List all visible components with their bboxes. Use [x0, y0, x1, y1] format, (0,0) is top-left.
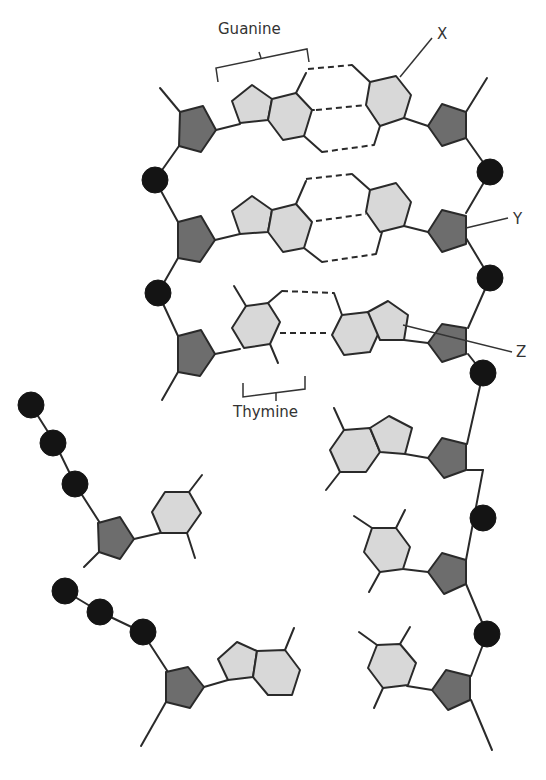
phosphate-right-5	[474, 621, 500, 647]
phosphate-left-2	[145, 280, 171, 306]
sugar-left-3	[178, 330, 215, 376]
guanine-label: Guanine	[218, 20, 281, 38]
phosphate-right-3	[470, 360, 496, 386]
purine-pentagon-free-2	[218, 642, 257, 680]
thymine-label: Thymine	[233, 403, 298, 421]
free-nucleotide-2	[52, 578, 300, 746]
base-pair-row-2	[178, 174, 466, 262]
phosphate-free-2a	[52, 578, 78, 604]
guanine-pentagon	[232, 85, 272, 123]
purine-hexagon-2	[268, 204, 312, 252]
sugar-free-2	[166, 667, 204, 708]
right-strand-unpaired	[326, 408, 470, 710]
sugar-right-4	[428, 438, 466, 478]
sugar-right-6	[432, 670, 470, 710]
purine-hexagon-free-2	[253, 650, 300, 695]
sugar-free-1	[98, 517, 134, 559]
base-pair-row-1	[179, 65, 466, 152]
pyrimidine-hexagon-2	[366, 183, 411, 232]
z-label: Z	[516, 343, 526, 361]
x-leader-line	[400, 38, 432, 77]
left-backbone	[155, 88, 180, 400]
y-leader-line	[466, 218, 508, 228]
guanine-bracket	[216, 49, 309, 82]
purine-pentagon-2	[232, 196, 272, 234]
thymine-hexagon	[232, 303, 280, 348]
sugar-right-3	[428, 324, 466, 362]
free-nucleotide-1	[18, 392, 202, 567]
phosphate-right-1	[477, 159, 503, 185]
guanine-hexagon	[268, 93, 312, 140]
pyrimidine-hexagon-free-1	[152, 492, 201, 533]
phosphate-free-1a	[18, 392, 44, 418]
base-pair-row-3	[178, 286, 466, 376]
phosphate-right-4	[470, 505, 496, 531]
phosphate-right-2	[477, 265, 503, 291]
sugar-left-2	[178, 216, 215, 262]
sugar-right-1	[428, 104, 466, 146]
dna-diagram: Guanine X Y Z Thymine	[0, 0, 546, 780]
dna-structure-svg	[0, 0, 546, 780]
pyrimidine-hexagon-right-6	[368, 644, 416, 688]
y-label: Y	[513, 210, 522, 228]
thymine-bracket	[243, 376, 305, 397]
pyrimidine-hexagon-right-5	[364, 528, 410, 572]
sugar-right-5	[428, 553, 466, 594]
phosphate-free-2c	[130, 619, 156, 645]
x-label: X	[437, 25, 447, 43]
phosphate-free-1b	[40, 430, 66, 456]
sugar-right-2-y	[428, 210, 466, 252]
phosphate-free-1c	[62, 471, 88, 497]
sugar-left-1	[179, 106, 216, 152]
phosphate-left-1	[142, 167, 168, 193]
phosphate-free-2b	[87, 599, 113, 625]
